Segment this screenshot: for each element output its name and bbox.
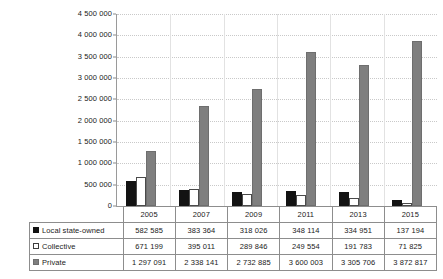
bar-chart-figure: 4 500 0004 000 0003 500 0003 000 0002 50… <box>0 0 443 279</box>
table-row: Local state-owned582 585383 364318 02634… <box>30 223 437 239</box>
plot-region: 4 500 0004 000 0003 500 0003 000 0002 50… <box>0 0 443 209</box>
legend-swatch-private-icon <box>33 259 39 265</box>
bar-collective-2005 <box>136 177 146 206</box>
table-cell: 671 199 <box>123 239 175 255</box>
y-axis-tick-label: 3 000 000 <box>78 74 112 82</box>
bar-private-2015 <box>412 41 422 206</box>
y-axis-tick-label: 2 000 000 <box>78 117 112 125</box>
table-cell: 191 783 <box>332 239 384 255</box>
table-cell: 249 554 <box>280 239 332 255</box>
table-cell: 383 364 <box>175 223 227 239</box>
bar-local-2013 <box>339 192 349 206</box>
y-axis-tick-label: 3 500 000 <box>78 53 112 61</box>
legend-label: Local state-owned <box>42 226 105 235</box>
legend-item-private: Private <box>30 255 124 271</box>
bar-private-2009 <box>252 89 262 206</box>
table-cell: 318 026 <box>228 223 280 239</box>
legend-item-local: Local state-owned <box>30 223 124 239</box>
table-cell: 334 951 <box>332 223 384 239</box>
table-column-header-2007: 2007 <box>175 207 227 223</box>
y-axis-tick-label: 2 500 000 <box>78 95 112 103</box>
table-cell: 289 846 <box>228 239 280 255</box>
y-axis-tick-label: 4 500 000 <box>78 10 112 18</box>
table-corner-cell <box>30 207 124 223</box>
category-separator <box>384 14 385 206</box>
table-row: Collective671 199395 011289 846249 55419… <box>30 239 437 255</box>
category-separator <box>330 14 331 206</box>
y-axis-tick-label: 1 500 000 <box>78 138 112 146</box>
legend-label: Collective <box>42 242 76 251</box>
plot-canvas <box>117 14 437 206</box>
table-column-header-2015: 2015 <box>384 207 436 223</box>
legend-swatch-collective-icon <box>33 243 39 249</box>
bar-collective-2007 <box>189 189 199 206</box>
data-table: 200520072009201120132015Local state-owne… <box>29 206 437 271</box>
bar-local-2007 <box>179 190 189 206</box>
data-table-body: 200520072009201120132015Local state-owne… <box>30 207 437 271</box>
table-column-header-2005: 2005 <box>123 207 175 223</box>
bar-collective-2013 <box>349 198 359 206</box>
bar-private-2013 <box>359 65 369 206</box>
bar-local-2011 <box>286 191 296 206</box>
table-column-header-2009: 2009 <box>228 207 280 223</box>
y-axis-tick-labels: 4 500 0004 000 0003 500 0003 000 0002 50… <box>60 14 112 206</box>
legend-item-collective: Collective <box>30 239 124 255</box>
table-cell: 2 732 885 <box>228 255 280 271</box>
y-axis-tick-label: 1 000 000 <box>78 159 112 167</box>
table-column-header-2013: 2013 <box>332 207 384 223</box>
table-cell: 3 600 003 <box>280 255 332 271</box>
table-column-header-2011: 2011 <box>280 207 332 223</box>
legend-label: Private <box>42 258 66 267</box>
table-cell: 3 872 817 <box>384 255 436 271</box>
table-cell: 71 825 <box>384 239 436 255</box>
legend-swatch-local-icon <box>33 227 39 233</box>
table-cell: 2 338 141 <box>175 255 227 271</box>
bar-private-2005 <box>146 151 156 206</box>
table-header-row: 200520072009201120132015 <box>30 207 437 223</box>
table-row: Private1 297 0912 338 1412 732 8853 600 … <box>30 255 437 271</box>
bar-private-2011 <box>306 52 316 206</box>
bar-local-2005 <box>126 181 136 206</box>
y-axis-tick-label: 4 000 000 <box>78 31 112 39</box>
table-cell: 137 194 <box>384 223 436 239</box>
table-cell: 3 305 706 <box>332 255 384 271</box>
bar-local-2009 <box>232 192 242 206</box>
category-separator <box>170 14 171 206</box>
table-cell: 582 585 <box>123 223 175 239</box>
table-cell: 348 114 <box>280 223 332 239</box>
category-separator <box>277 14 278 206</box>
table-cell: 395 011 <box>175 239 227 255</box>
bar-private-2007 <box>199 106 209 206</box>
bar-collective-2011 <box>296 195 306 206</box>
bar-collective-2009 <box>242 194 252 206</box>
y-axis-tick-label: 500 000 <box>84 181 112 189</box>
category-separator <box>224 14 225 206</box>
table-cell: 1 297 091 <box>123 255 175 271</box>
